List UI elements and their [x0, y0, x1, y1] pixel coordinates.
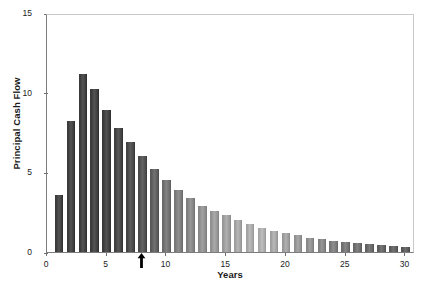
- bar: [67, 121, 76, 252]
- bar: [102, 110, 111, 252]
- x-tick-mark: [106, 253, 107, 256]
- x-tick-label: 30: [400, 259, 409, 269]
- y-tick-label: 10: [23, 88, 32, 98]
- x-tick-label: 10: [161, 259, 170, 269]
- year-marker-arrow-icon: [137, 253, 146, 268]
- plot-area: [46, 14, 414, 253]
- x-tick-label: 15: [220, 259, 229, 269]
- bar: [282, 233, 291, 252]
- bar: [365, 244, 374, 252]
- bar: [329, 241, 338, 252]
- x-tick-label: 20: [280, 259, 289, 269]
- bar: [186, 198, 195, 252]
- bar: [306, 238, 315, 252]
- x-tick-mark: [345, 253, 346, 256]
- x-tick-mark: [404, 253, 405, 256]
- bar: [162, 180, 171, 252]
- cash-flow-bar-chart: Principal Cash Flow 051015 051015202530 …: [0, 0, 445, 286]
- x-tick-label: 25: [340, 259, 349, 269]
- x-tick-label: 5: [103, 259, 108, 269]
- bar: [353, 243, 362, 252]
- up-arrow-icon: [137, 253, 146, 268]
- x-tick-mark: [46, 253, 47, 256]
- y-tick-label: 0: [27, 247, 32, 257]
- bar: [401, 247, 410, 252]
- bar: [90, 89, 99, 252]
- bar: [294, 235, 303, 252]
- bar: [377, 245, 386, 252]
- bar: [150, 169, 159, 252]
- bar: [210, 211, 219, 252]
- x-tick-mark: [285, 253, 286, 256]
- bar: [138, 156, 147, 252]
- bar: [258, 228, 267, 252]
- y-tick-label: 15: [23, 8, 32, 18]
- y-tick-label: 5: [27, 167, 32, 177]
- x-tick-mark: [225, 253, 226, 256]
- bar: [55, 195, 64, 252]
- bar: [222, 215, 231, 252]
- bar: [114, 128, 123, 252]
- bar: [389, 246, 398, 252]
- bar: [270, 231, 279, 253]
- bar: [198, 206, 207, 252]
- y-axis-title: Principal Cash Flow: [11, 54, 22, 194]
- x-tick-label: 0: [44, 259, 49, 269]
- bar-series: [47, 15, 413, 252]
- bar: [126, 142, 135, 252]
- bar: [234, 220, 243, 252]
- x-tick-mark: [165, 253, 166, 256]
- x-axis-title: Years: [46, 269, 414, 280]
- bar: [79, 74, 88, 252]
- bar: [318, 239, 327, 252]
- bar: [246, 224, 255, 252]
- bar: [341, 242, 350, 252]
- bar: [174, 190, 183, 252]
